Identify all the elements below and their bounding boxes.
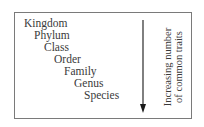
rank-family: Family <box>64 65 97 77</box>
arrow-label: Increasing number of common traits <box>163 21 185 113</box>
arrow-label-line2: of common traits <box>174 21 185 113</box>
rank-kingdom: Kingdom <box>24 17 67 29</box>
rank-order: Order <box>54 53 81 65</box>
rank-class: Class <box>44 41 69 53</box>
rank-species: Species <box>84 89 119 101</box>
rank-phylum: Phylum <box>34 29 70 41</box>
diagram-frame: Kingdom Phylum Class Order Family Genus … <box>14 12 192 119</box>
down-arrow-icon <box>139 20 147 113</box>
rank-genus: Genus <box>74 77 103 89</box>
arrow-label-line1: Increasing number <box>163 21 174 113</box>
